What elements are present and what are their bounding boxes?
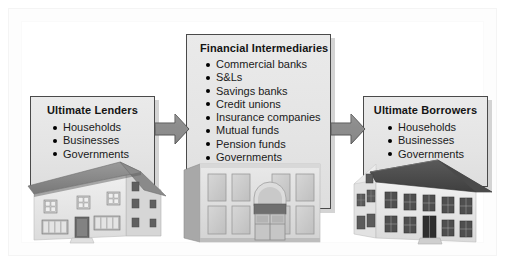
bullet-icon bbox=[53, 139, 57, 143]
bullet-icon bbox=[388, 139, 392, 143]
bullet-icon bbox=[206, 102, 210, 106]
list-item: Households bbox=[52, 121, 154, 134]
bullet-icon bbox=[206, 116, 210, 120]
house-colonial-illustration bbox=[348, 150, 498, 252]
list-item-label: S&Ls bbox=[216, 71, 242, 83]
bullet-icon bbox=[206, 142, 210, 146]
list-item: Credit unions bbox=[205, 98, 330, 111]
bank-classical-illustration bbox=[182, 158, 322, 250]
list-item: Households bbox=[387, 121, 487, 134]
list-item-label: Savings banks bbox=[216, 85, 288, 97]
financial-intermediaries-title: Financial Intermediaries bbox=[187, 42, 330, 54]
bullet-icon bbox=[206, 63, 210, 67]
list-item: Mutual funds bbox=[205, 124, 330, 137]
list-item: Pension funds bbox=[205, 138, 330, 151]
bullet-icon bbox=[206, 76, 210, 80]
list-item: S&Ls bbox=[205, 71, 330, 84]
ultimate-lenders-title: Ultimate Lenders bbox=[31, 104, 154, 116]
list-item-label: Commercial banks bbox=[216, 58, 307, 70]
bullet-icon bbox=[53, 126, 57, 130]
bullet-icon bbox=[206, 89, 210, 93]
list-item-label: Businesses bbox=[398, 134, 454, 146]
list-item-label: Businesses bbox=[63, 134, 119, 146]
house-suburban-illustration bbox=[22, 150, 174, 249]
list-item-label: Mutual funds bbox=[216, 124, 279, 136]
list-item-label: Households bbox=[398, 121, 456, 133]
list-item-label: Households bbox=[63, 121, 121, 133]
list-item-label: Insurance companies bbox=[216, 111, 321, 123]
list-item-label: Pension funds bbox=[216, 138, 286, 150]
ultimate-borrowers-title: Ultimate Borrowers bbox=[364, 104, 487, 116]
list-item: Savings banks bbox=[205, 85, 330, 98]
list-item-label: Credit unions bbox=[216, 98, 281, 110]
arrow-lenders-to-intermediaries bbox=[154, 112, 190, 146]
bullet-icon bbox=[388, 126, 392, 130]
list-item: Businesses bbox=[52, 134, 154, 147]
diagram-canvas: Ultimate Lenders Households Businesses G… bbox=[0, 0, 505, 264]
bullet-icon bbox=[206, 129, 210, 133]
arrow-intermediaries-to-borrowers bbox=[330, 112, 366, 146]
list-item: Businesses bbox=[387, 134, 487, 147]
list-item: Insurance companies bbox=[205, 111, 330, 124]
list-item: Commercial banks bbox=[205, 58, 330, 71]
financial-intermediaries-list: Commercial banks S&Ls Savings banks Cred… bbox=[205, 58, 330, 164]
